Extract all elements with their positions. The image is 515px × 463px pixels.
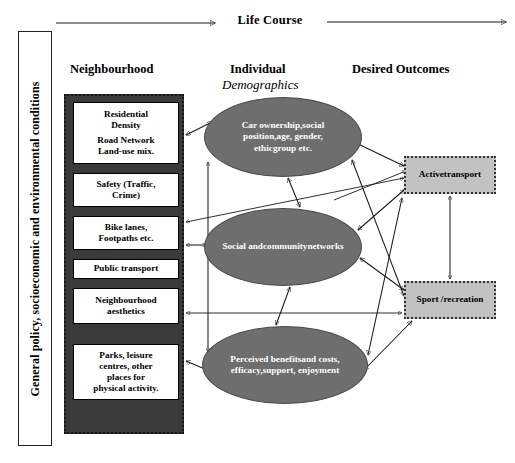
text-line: networks (307, 241, 343, 251)
text-line: Active (419, 169, 444, 179)
life-course-label: Life Course (222, 13, 318, 28)
neighbourhood-group-container: ResidentialDensity Road NetworkLand-use … (64, 94, 184, 434)
text-line: centres, other (93, 361, 158, 372)
text-line: support, enjoyment (263, 365, 340, 375)
text-line: Safety (Traffic, (96, 179, 155, 190)
context-conditions-band: General policy, socioeconomic and enviro… (18, 31, 52, 446)
text-line: Road Network (97, 135, 154, 146)
neighbourhood-item: Parks, leisurecentres, otherplaces forph… (73, 344, 179, 400)
individual-ellipse: Social andcommunitynetworks (204, 208, 362, 286)
diagram-canvas: Life Course General policy, socioeconomi… (0, 0, 515, 463)
text-line: community (263, 241, 307, 251)
text-line: Residential (97, 109, 154, 120)
neighbourhood-item: Neighbourhoodaesthetics (73, 288, 179, 324)
text-line: Bike lanes, (98, 222, 153, 233)
neighbourhood-item: Public transport (73, 259, 179, 279)
context-conditions-label: General policy, socioeconomic and enviro… (28, 81, 43, 396)
text-line: Car ownership, (242, 120, 303, 130)
text-line: Social and (222, 241, 263, 251)
text-line: transport (444, 169, 481, 179)
neighbourhood-item: Bike lanes,Footpaths etc. (73, 216, 179, 250)
column-heading-individual: Individual (230, 62, 286, 77)
text-line: physical activity. (93, 383, 158, 394)
text-line: Land-use mix. (97, 146, 154, 157)
column-heading-demographics: Demographics (222, 77, 299, 93)
text-line: Public transport (94, 263, 159, 274)
text-line: aesthetics (95, 306, 156, 317)
neighbourhood-item: Safety (Traffic,Crime) (73, 173, 179, 207)
text-line: recreation (443, 294, 483, 304)
text-line: Sport / (417, 294, 444, 304)
individual-ellipse: Perceived benefitsand costs, efficacy,su… (202, 326, 368, 404)
neighbourhood-item: ResidentialDensity Road NetworkLand-use … (73, 102, 179, 164)
text-line: Neighbourhood (95, 295, 156, 306)
individual-ellipse: Car ownership,social position,age, gende… (204, 97, 362, 177)
text-line: Crime) (96, 190, 155, 201)
outcome-box-sport-recreation: Sport /recreation (404, 281, 496, 319)
column-heading-desired-outcomes: Desired Outcomes (352, 62, 449, 77)
text-line: Perceived benefits (230, 354, 301, 364)
column-heading-neighbourhood: Neighbourhood (70, 62, 153, 77)
outcome-box-active-transport: Activetransport (404, 156, 496, 194)
text-line: places for (93, 372, 158, 383)
text-line: Parks, leisure (93, 350, 158, 361)
text-line: Footpaths etc. (98, 233, 153, 244)
text-line: group etc. (273, 143, 312, 153)
